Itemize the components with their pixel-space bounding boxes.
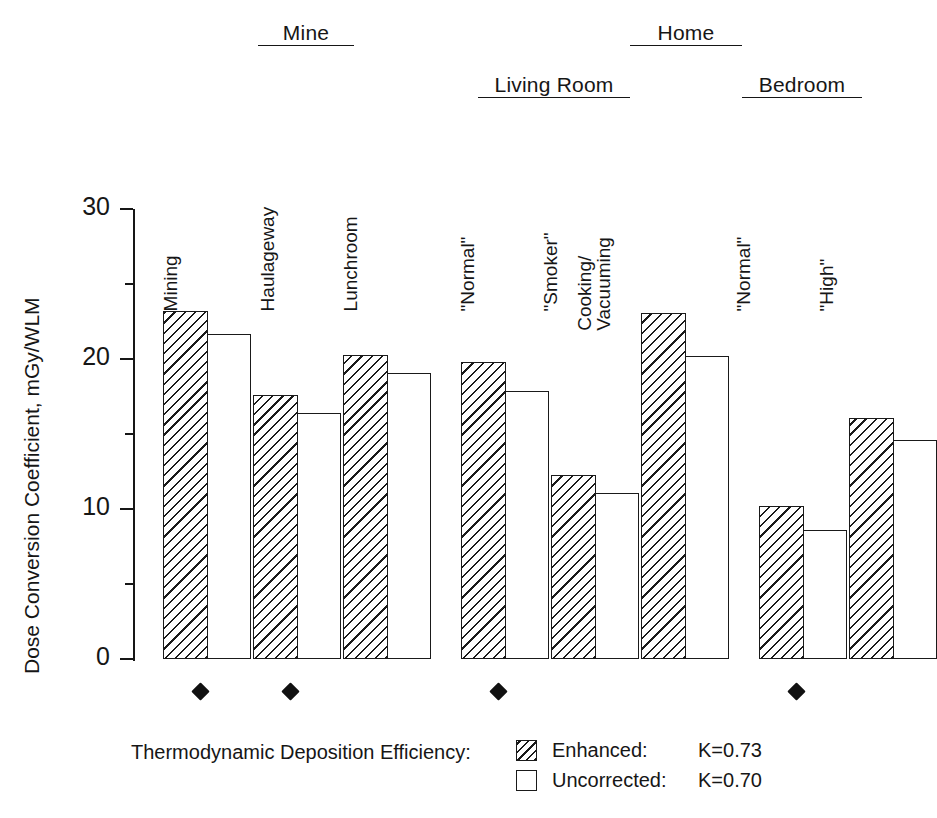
bar-uncorrected [296,413,341,659]
legend-label-enhanced: Enhanced: [552,739,648,762]
bar-uncorrected [206,334,251,660]
bar-enhanced [551,475,596,660]
bar-enhanced [253,395,298,659]
bar-uncorrected [504,391,549,660]
bar-enhanced [343,355,388,660]
bar-uncorrected [802,530,847,659]
legend-swatch-white-icon [516,770,537,791]
diamond-marker-icon [191,682,209,700]
bar-uncorrected [684,356,729,659]
legend-swatch-hatched-icon [516,740,537,761]
legend-label-uncorrected: Uncorrected: [552,769,667,792]
bar-enhanced [849,418,894,660]
bar-enhanced [641,313,686,660]
bar-enhanced [759,506,804,659]
legend: Thermodynamic Deposition Efficiency: Enh… [131,737,831,805]
bar-uncorrected [892,440,937,659]
bar-uncorrected [386,373,431,660]
diamond-marker-icon [489,682,507,700]
legend-k-enhanced: K=0.73 [698,739,762,762]
bar-enhanced [461,362,506,659]
bar-uncorrected [594,493,639,660]
diamond-marker-icon [787,682,805,700]
legend-k-uncorrected: K=0.70 [698,769,762,792]
bar-enhanced [163,311,208,659]
diamond-marker-icon [281,682,299,700]
legend-title: Thermodynamic Deposition Efficiency: [131,741,471,764]
